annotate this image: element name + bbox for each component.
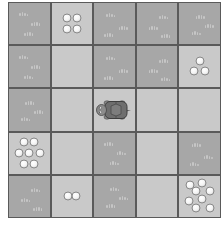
cell-r1-c1-light[interactable] (52, 46, 93, 87)
pebble-icon (72, 13, 81, 22)
cell-r2-c2-light[interactable] (94, 89, 135, 130)
grass-tuft-icon (106, 13, 115, 17)
grass-tuft-icon (196, 15, 205, 19)
grass-tuft-icon (110, 161, 119, 165)
pebble-icon (71, 192, 80, 201)
pebble-icon (195, 57, 204, 66)
grass-tuft-icon (21, 198, 30, 202)
pebble-icon (191, 203, 200, 212)
cell-r1-c3-grass[interactable] (137, 46, 178, 87)
cell-r1-c2-grass[interactable] (94, 46, 135, 87)
cell-r2-c3-light[interactable] (137, 89, 178, 130)
cell-r4-c1-light[interactable] (52, 176, 93, 217)
pebble-icon (63, 25, 72, 34)
grass-tuft-icon (149, 26, 158, 30)
pebble-icon (30, 159, 39, 168)
grass-tuft-icon (31, 22, 40, 26)
cell-r1-c0-grass[interactable] (9, 46, 50, 87)
cell-r4-c3-light[interactable] (137, 176, 178, 217)
grass-tuft-icon (192, 143, 201, 147)
grass-tuft-icon (104, 142, 113, 146)
grass-tuft-icon (161, 77, 170, 81)
grass-tuft-icon (119, 196, 128, 200)
grass-tuft-icon (119, 69, 128, 73)
cell-r3-c3-light[interactable] (137, 133, 178, 174)
grass-tuft-icon (159, 59, 168, 63)
grass-tuft-icon (21, 117, 30, 121)
pebble-icon (25, 149, 34, 158)
pebble-icon (206, 203, 215, 212)
pebble-icon (190, 66, 199, 75)
grass-tuft-icon (119, 26, 128, 30)
pebble-icon (30, 138, 39, 147)
grass-tuft-icon (104, 33, 113, 37)
pebble-icon (20, 138, 29, 147)
grass-tuft-icon (25, 101, 34, 105)
pebble-icon (20, 159, 29, 168)
grass-tuft-icon (104, 76, 113, 80)
grass-tuft-icon (19, 55, 28, 59)
pebble-icon (198, 179, 207, 188)
turtle-player-icon (96, 98, 132, 122)
grass-tuft-icon (24, 32, 33, 36)
pebble-icon (14, 149, 23, 158)
cell-r0-c0-grass[interactable] (9, 3, 50, 44)
cell-r2-c0-grass[interactable] (9, 89, 50, 130)
grass-tuft-icon (31, 188, 40, 192)
grass-tuft-icon (159, 15, 168, 19)
cell-r3-c2-grass[interactable] (94, 133, 135, 174)
cell-r0-c1-light[interactable] (52, 3, 93, 44)
grass-tuft-icon (204, 155, 213, 159)
pebble-icon (72, 25, 81, 34)
grass-tuft-icon (117, 151, 126, 155)
grass-tuft-icon (33, 207, 42, 211)
pebble-icon (63, 13, 72, 22)
pebble-icon (201, 66, 210, 75)
cell-r3-c0-light[interactable] (9, 133, 50, 174)
pebble-icon (206, 187, 215, 196)
grass-tuft-icon (34, 110, 43, 114)
grass-tuft-icon (106, 56, 115, 60)
grass-tuft-icon (205, 24, 214, 28)
cell-r4-c2-grass[interactable] (94, 176, 135, 217)
cell-r1-c4-light[interactable] (179, 46, 220, 87)
cell-r3-c4-grass[interactable] (179, 133, 220, 174)
cell-r4-c0-grass[interactable] (9, 176, 50, 217)
grass-tuft-icon (106, 204, 115, 208)
game-board (8, 2, 221, 218)
grass-tuft-icon (161, 34, 170, 38)
grass-tuft-icon (149, 69, 158, 73)
pebble-icon (35, 149, 44, 158)
grass-tuft-icon (192, 31, 201, 35)
cell-r0-c2-grass[interactable] (94, 3, 135, 44)
cell-r2-c4-light[interactable] (179, 89, 220, 130)
cell-r0-c3-grass[interactable] (137, 3, 178, 44)
pebble-icon (198, 194, 207, 203)
grass-tuft-icon (31, 65, 40, 69)
cell-r2-c1-light[interactable] (52, 89, 93, 130)
grass-tuft-icon (24, 75, 33, 79)
grass-tuft-icon (190, 162, 199, 166)
cell-r4-c4-light[interactable] (179, 176, 220, 217)
grass-tuft-icon (19, 12, 28, 16)
cell-r0-c4-grass[interactable] (179, 3, 220, 44)
grass-tuft-icon (110, 187, 119, 191)
cell-r3-c1-light[interactable] (52, 133, 93, 174)
